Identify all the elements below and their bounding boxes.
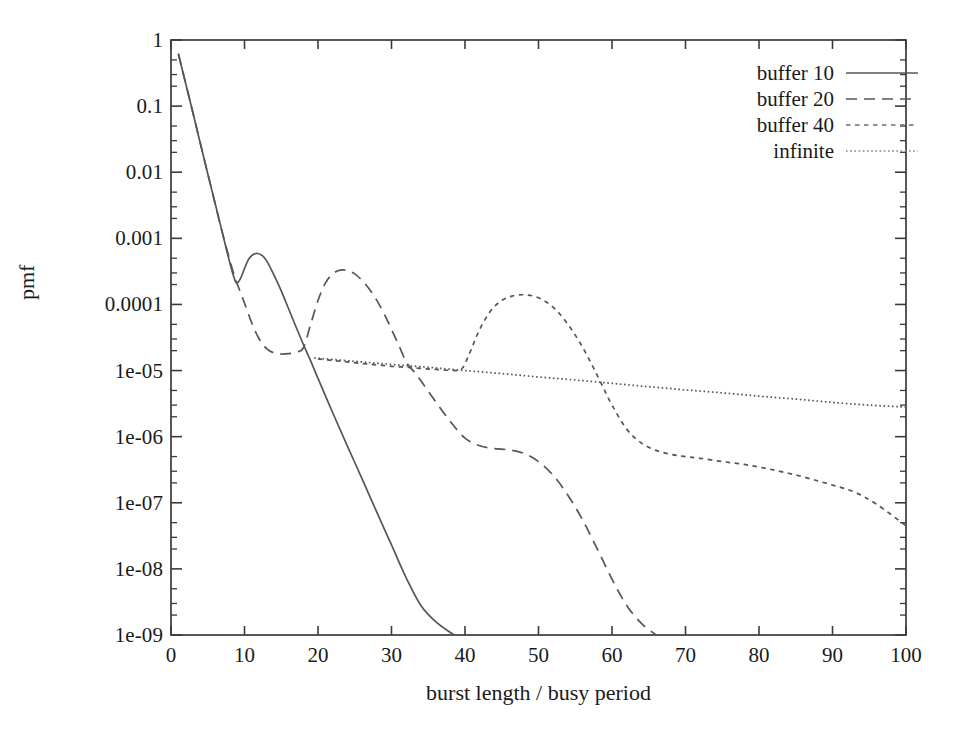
y-tick-label: 0.001 [115, 228, 163, 249]
y-axis-title: pmf [14, 265, 40, 300]
legend-label: buffer 20 [757, 89, 834, 110]
x-tick-label: 40 [455, 645, 476, 666]
y-tick-label: 0.01 [126, 162, 163, 183]
chart-legend: buffer 10buffer 20buffer 40infinite [690, 60, 920, 164]
x-tick-label: 80 [749, 645, 770, 666]
legend-entry-buffer-40[interactable]: buffer 40 [690, 112, 920, 138]
x-tick-label: 30 [381, 645, 402, 666]
y-tick-label: 1e-08 [115, 558, 163, 579]
curve-buffer-40 [318, 295, 906, 526]
y-tick-label: 1e-09 [115, 625, 163, 646]
y-tick-label: 1e-05 [115, 360, 163, 381]
legend-entry-buffer-20[interactable]: buffer 20 [690, 86, 920, 112]
legend-label: infinite [773, 141, 834, 162]
y-tick-label: 0.1 [136, 96, 163, 117]
y-axis-tick-labels: 10.10.010.0010.00011e-051e-061e-071e-081… [0, 0, 163, 732]
x-tick-label: 70 [675, 645, 696, 666]
curve-infinite [314, 358, 906, 407]
x-tick-label: 60 [602, 645, 623, 666]
x-tick-label: 0 [166, 645, 177, 666]
x-tick-label: 100 [890, 645, 922, 666]
x-tick-label: 10 [234, 645, 255, 666]
legend-line-sample-dashed [844, 92, 920, 106]
x-tick-label: 90 [822, 645, 843, 666]
legend-line-sample-dotted-fine [844, 144, 920, 158]
x-tick-label: 20 [308, 645, 329, 666]
legend-entry-infinite[interactable]: infinite [690, 138, 920, 164]
legend-entry-buffer-10[interactable]: buffer 10 [690, 60, 920, 86]
y-tick-label: 1 [152, 30, 163, 51]
y-tick-label: 1e-07 [115, 492, 163, 513]
y-tick-label: 0.0001 [105, 294, 163, 315]
x-tick-label: 50 [528, 645, 549, 666]
curve-buffer-10 [178, 54, 454, 635]
chart-figure: 10.10.010.0010.00011e-051e-061e-071e-081… [0, 0, 953, 732]
y-tick-label: 1e-06 [115, 426, 163, 447]
legend-line-sample-solid [844, 66, 920, 80]
legend-label: buffer 10 [757, 63, 834, 84]
x-axis-title: burst length / busy period [171, 680, 906, 706]
legend-label: buffer 40 [757, 115, 834, 136]
legend-line-sample-dotted-coarse [844, 118, 920, 132]
curve-buffer-20 [178, 54, 656, 635]
